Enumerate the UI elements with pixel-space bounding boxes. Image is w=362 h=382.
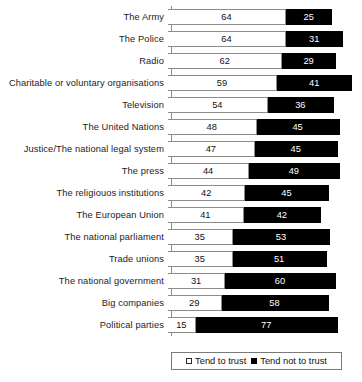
- bar-row-label: The religiouos institutions: [0, 188, 168, 199]
- bar-row-segments: 3553: [168, 229, 362, 245]
- bar-segment-tend-to-trust: 64: [168, 31, 286, 47]
- bar-row-label: The Army: [0, 12, 168, 23]
- bar-segment-tend-not-to-trust: 53: [233, 229, 331, 245]
- bar-row-segments: 6229: [168, 53, 362, 69]
- bar-value-tend-not-to-trust: 60: [275, 276, 285, 286]
- bar-segment-tend-to-trust: 31: [168, 273, 225, 289]
- bar-row: Trade unions3551: [0, 248, 362, 270]
- bar-segment-tend-to-trust: 42: [168, 185, 245, 201]
- bar-value-tend-not-to-trust: 29: [303, 56, 313, 66]
- bar-value-tend-to-trust: 47: [206, 144, 216, 154]
- bar-row-segments: 2958: [168, 295, 362, 311]
- bar-value-tend-not-to-trust: 31: [309, 34, 319, 44]
- bar-value-tend-not-to-trust: 58: [269, 298, 279, 308]
- bar-value-tend-to-trust: 64: [221, 34, 231, 44]
- bar-value-tend-to-trust: 35: [195, 232, 205, 242]
- legend-label-tend-to-trust: Tend to trust: [195, 356, 246, 366]
- bar-value-tend-to-trust: 54: [212, 100, 222, 110]
- bar-segment-tend-to-trust: 35: [168, 229, 233, 245]
- bar-segment-tend-not-to-trust: 25: [286, 9, 332, 25]
- bar-row: The United Nations4845: [0, 116, 362, 138]
- bar-row-label: Trade unions: [0, 254, 168, 265]
- bar-row: Charitable or voluntary organisations594…: [0, 72, 362, 94]
- bar-value-tend-not-to-trust: 41: [309, 78, 319, 88]
- bar-segment-tend-not-to-trust: 36: [268, 97, 334, 113]
- bar-segment-tend-not-to-trust: 29: [282, 53, 336, 69]
- bar-row-label: Political parties: [0, 320, 168, 331]
- bar-value-tend-to-trust: 64: [221, 12, 231, 22]
- bar-segment-tend-not-to-trust: 41: [277, 75, 353, 91]
- bar-segment-tend-not-to-trust: 45: [245, 185, 328, 201]
- bar-row-label: The Police: [0, 34, 168, 45]
- bar-row: The national government3160: [0, 270, 362, 292]
- bar-value-tend-not-to-trust: 36: [295, 100, 305, 110]
- bar-segment-tend-to-trust: 62: [168, 53, 282, 69]
- bar-value-tend-not-to-trust: 25: [303, 12, 313, 22]
- bar-row: Big companies2958: [0, 292, 362, 314]
- bar-segment-tend-not-to-trust: 60: [225, 273, 336, 289]
- bar-value-tend-to-trust: 15: [176, 320, 186, 330]
- bar-segment-tend-to-trust: 29: [168, 295, 222, 311]
- bar-value-tend-to-trust: 62: [220, 56, 230, 66]
- bar-row: The press4449: [0, 160, 362, 182]
- bar-segment-tend-not-to-trust: 45: [255, 141, 338, 157]
- bar-segment-tend-to-trust: 54: [168, 97, 268, 113]
- bar-row-segments: 4449: [168, 163, 362, 179]
- bar-row-label: Charitable or voluntary organisations: [0, 78, 168, 89]
- bar-value-tend-not-to-trust: 45: [292, 122, 302, 132]
- legend-swatch-open-icon: [186, 358, 192, 364]
- bar-row: Justice/The national legal system4745: [0, 138, 362, 160]
- bar-segment-tend-to-trust: 59: [168, 75, 277, 91]
- stacked-bar-chart: The Army6425The Police6431Radio6229Chari…: [0, 0, 362, 382]
- bar-segment-tend-to-trust: 64: [168, 9, 286, 25]
- chart-plot-area: The Army6425The Police6431Radio6229Chari…: [0, 6, 362, 336]
- bar-row-segments: 6431: [168, 31, 362, 47]
- bar-segment-tend-to-trust: 44: [168, 163, 249, 179]
- bar-row-label: Justice/The national legal system: [0, 144, 168, 155]
- legend-item-tend-not-to-trust: Tend not to trust: [251, 356, 327, 366]
- bar-row-label: The United Nations: [0, 122, 168, 133]
- bar-row-segments: 1577: [168, 317, 362, 333]
- bar-value-tend-to-trust: 29: [189, 298, 199, 308]
- bar-segment-tend-not-to-trust: 45: [257, 119, 340, 135]
- bar-row-segments: 5436: [168, 97, 362, 113]
- bar-row-segments: 4245: [168, 185, 362, 201]
- bar-segment-tend-not-to-trust: 77: [196, 317, 338, 333]
- bar-row: Radio6229: [0, 50, 362, 72]
- bar-segment-tend-not-to-trust: 31: [286, 31, 343, 47]
- bar-row-segments: 6425: [168, 9, 362, 25]
- bar-row-segments: 4845: [168, 119, 362, 135]
- chart-legend: Tend to trust Tend not to trust: [171, 352, 342, 370]
- bar-row: Television5436: [0, 94, 362, 116]
- bar-row-label: The national government: [0, 276, 168, 287]
- bar-row: The European Union4142: [0, 204, 362, 226]
- bar-segment-tend-not-to-trust: 42: [244, 207, 321, 223]
- bar-row-label: Radio: [0, 56, 168, 67]
- legend-swatch-filled-icon: [251, 358, 257, 364]
- bar-segment-tend-to-trust: 47: [168, 141, 255, 157]
- bar-row-segments: 4745: [168, 141, 362, 157]
- bar-value-tend-not-to-trust: 77: [261, 320, 271, 330]
- bar-row: The Army6425: [0, 6, 362, 28]
- bar-value-tend-to-trust: 41: [200, 210, 210, 220]
- legend-item-tend-to-trust: Tend to trust: [186, 356, 246, 366]
- bar-row-label: The press: [0, 166, 168, 177]
- bar-value-tend-to-trust: 35: [195, 254, 205, 264]
- bar-segment-tend-to-trust: 15: [168, 317, 196, 333]
- bar-row: The religiouos institutions4245: [0, 182, 362, 204]
- bar-value-tend-to-trust: 48: [207, 122, 217, 132]
- bar-segment-tend-not-to-trust: 58: [222, 295, 329, 311]
- bar-value-tend-not-to-trust: 45: [281, 188, 291, 198]
- bar-segment-tend-not-to-trust: 51: [233, 251, 327, 267]
- bar-row-label: The European Union: [0, 210, 168, 221]
- bar-value-tend-to-trust: 44: [203, 166, 213, 176]
- bar-row-label: Big companies: [0, 298, 168, 309]
- bar-value-tend-not-to-trust: 45: [291, 144, 301, 154]
- bar-value-tend-to-trust: 42: [201, 188, 211, 198]
- bar-segment-tend-to-trust: 41: [168, 207, 244, 223]
- bar-row-segments: 3160: [168, 273, 362, 289]
- bar-value-tend-not-to-trust: 53: [276, 232, 286, 242]
- bar-value-tend-to-trust: 59: [217, 78, 227, 88]
- bar-segment-tend-not-to-trust: 49: [249, 163, 339, 179]
- bar-row-label: Television: [0, 100, 168, 111]
